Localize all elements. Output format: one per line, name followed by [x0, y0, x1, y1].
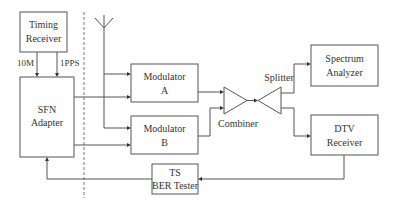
- dtv-receiver-label-2: Receiver: [327, 137, 363, 148]
- ts-ber-tester-label-2: BER Tester: [152, 180, 199, 191]
- antenna-wires: [104, 72, 131, 130]
- timing-wires: 10M 1PPS: [17, 52, 80, 77]
- timing-receiver-block: Timing Receiver: [20, 12, 67, 52]
- signal-1pps-label: 1PPS: [60, 58, 80, 68]
- sfn-to-modulator-wires: [74, 95, 131, 147]
- spectrum-analyzer-block: Spectrum Analyzer: [311, 45, 378, 86]
- dtv-receiver-label-1: DTV: [334, 123, 355, 134]
- sfn-adapter-label-2: Adapter: [31, 117, 64, 128]
- modulator-a-label-1: Modulator: [143, 71, 186, 82]
- spectrum-analyzer-label-2: Analyzer: [326, 67, 363, 78]
- sfn-adapter-block: SFN Adapter: [20, 77, 74, 157]
- arrow-down-icon: [35, 73, 39, 77]
- modulator-a-block: Modulator A: [131, 64, 198, 102]
- splitter-label: Splitter: [264, 72, 294, 83]
- arrow-down-icon: [55, 73, 59, 77]
- timing-receiver-label-2: Receiver: [26, 33, 62, 44]
- spectrum-analyzer-label-1: Spectrum: [325, 53, 364, 64]
- ber-to-sfn-wire: [45, 157, 152, 179]
- ts-ber-tester-label-1: TS: [169, 167, 181, 178]
- combiner-to-splitter-wire: [247, 99, 258, 103]
- signal-10m-label: 10M: [17, 58, 34, 68]
- modulator-b-label-2: B: [161, 137, 168, 148]
- timing-receiver-label-1: Timing: [29, 19, 58, 30]
- dtv-to-ber-wire: [198, 155, 344, 181]
- combiner-label: Combiner: [218, 118, 259, 129]
- modulator-b-block: Modulator B: [131, 116, 198, 154]
- block-diagram: Timing Receiver 10M 1PPS SFN Adapter: [0, 0, 394, 208]
- ts-ber-tester-block: TS BER Tester: [152, 164, 199, 194]
- antenna-icon: [95, 15, 113, 128]
- modulator-a-label-2: A: [161, 85, 169, 96]
- dtv-receiver-block: DTV Receiver: [311, 115, 378, 155]
- combiner-block: Combiner: [218, 87, 259, 129]
- modulator-b-label-1: Modulator: [143, 123, 186, 134]
- sfn-adapter-label-1: SFN: [38, 104, 56, 115]
- modulator-to-combiner-wires: [198, 90, 224, 136]
